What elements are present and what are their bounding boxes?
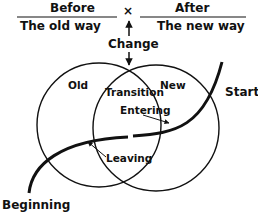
entering-arrow [143,115,169,123]
new-circle [93,65,219,191]
entering-label: Entering [120,105,171,116]
old-label: Old [68,80,88,91]
change-label: Change [108,38,159,50]
separator-x-icon: × [123,5,133,17]
after-sub-label: The new way [157,20,245,32]
transition-label: Transition [105,87,164,98]
leaving-label: Leaving [106,153,152,164]
start-label: Start [225,86,258,98]
old-circle [37,63,161,187]
new-label: New [160,80,186,91]
before-sub-label: The old way [20,20,101,32]
transition-curve-lower [29,137,128,193]
leaving-arrow [88,142,106,157]
transition-curve-upper [133,62,222,136]
beginning-label: Beginning [2,199,70,211]
after-label: After [175,2,209,14]
before-label: Before [50,2,95,14]
